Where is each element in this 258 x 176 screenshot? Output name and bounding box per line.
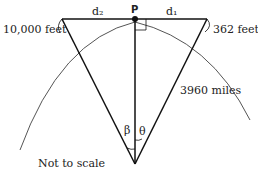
left-slant-line bbox=[62, 19, 135, 164]
radius-label: 3960 miles bbox=[180, 84, 241, 97]
earth-tangent-diagram: P d₂ d₁ 10,000 feet 362 feet 3960 miles … bbox=[0, 0, 258, 176]
point-p-dot bbox=[132, 16, 138, 22]
right-height-label: 362 feet bbox=[213, 23, 258, 36]
beta-label: β bbox=[124, 124, 130, 137]
theta-label: θ bbox=[139, 125, 146, 138]
theta-arc bbox=[135, 139, 142, 140]
d2-label: d₂ bbox=[92, 5, 103, 18]
scale-note: Not to scale bbox=[38, 157, 105, 170]
left-height-label: 10,000 feet bbox=[3, 23, 67, 36]
d1-label: d₁ bbox=[166, 5, 177, 18]
point-p-label: P bbox=[131, 4, 138, 15]
